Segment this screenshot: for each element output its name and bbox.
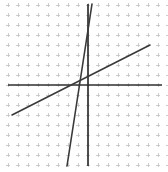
plot-svg <box>0 0 168 172</box>
plot-background <box>0 0 168 172</box>
coordinate-plot <box>0 0 168 172</box>
